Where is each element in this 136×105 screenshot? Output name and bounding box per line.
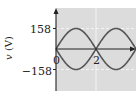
y-axis-label: v (V) — [3, 36, 14, 60]
y-tick-neg158: −158 — [22, 65, 52, 78]
y-axis-label-unit: (V) — [3, 36, 14, 54]
voltage-chart: 158 −158 0 2 v (V) — [0, 0, 136, 105]
y-tick-158: 158 — [30, 23, 51, 36]
x-tick-0: 0 — [53, 54, 60, 67]
x-tick-2: 2 — [93, 54, 100, 67]
